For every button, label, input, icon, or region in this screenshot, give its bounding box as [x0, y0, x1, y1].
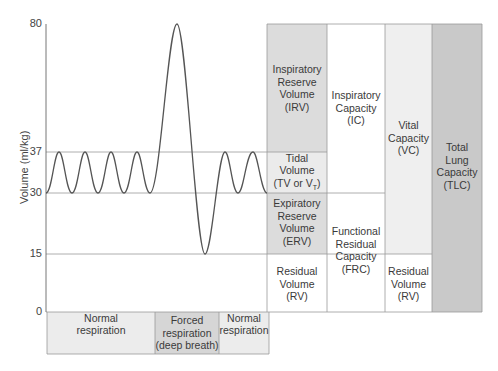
- phase-forced-label: Forcedrespiration(deep breath): [155, 314, 219, 352]
- rv-label-2: ResidualVolume(RV): [385, 264, 432, 304]
- tick-0: 0: [18, 305, 42, 317]
- tlc-label: TotalLungCapacity(TLC): [432, 140, 482, 192]
- tick-30: 30: [18, 186, 42, 198]
- volume-curve: [46, 24, 267, 254]
- phase-normal-2-label: Normalrespiration: [219, 314, 269, 334]
- tick-15: 15: [18, 247, 42, 259]
- irv-label: InspiratoryReserveVolume(IRV): [267, 62, 327, 114]
- tv-label: TidalVolume (TV or VT): [267, 153, 327, 193]
- ic-label: InspiratoryCapacity(IC): [327, 88, 385, 128]
- tick-37: 37: [18, 145, 42, 157]
- rv-label: ResidualVolume(RV): [267, 264, 327, 304]
- vc-label: VitalCapacity(VC): [385, 118, 432, 158]
- erv-label: ExpiratoryReserveVolume(ERV): [267, 196, 327, 248]
- frc-label: FunctionalResidualCapacity(FRC): [327, 224, 385, 276]
- tick-80: 80: [18, 17, 42, 29]
- phase-normal-1-label: Normalrespiration: [47, 314, 155, 334]
